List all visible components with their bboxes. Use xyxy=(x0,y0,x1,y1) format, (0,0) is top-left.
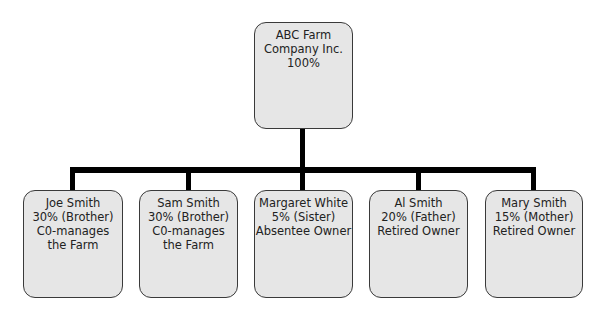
root-company-box: ABC Farm Company Inc. 100% xyxy=(254,22,353,129)
owner-role-cont: the Farm xyxy=(140,238,237,252)
owner-box-mary-smith: Mary Smith 15% (Mother) Retired Owner xyxy=(485,190,583,298)
stem-sam xyxy=(186,167,191,191)
owner-box-joe-smith: Joe Smith 30% (Brother) C0-manages the F… xyxy=(23,190,123,298)
owner-share: 5% (Sister) xyxy=(255,210,352,224)
owner-name: Sam Smith xyxy=(140,196,237,210)
owner-name: Margaret White xyxy=(255,196,352,210)
stem-mary xyxy=(531,167,536,191)
owner-box-sam-smith: Sam Smith 30% (Brother) C0-manages the F… xyxy=(139,190,238,298)
owner-share: 15% (Mother) xyxy=(486,210,582,224)
stem-al xyxy=(416,167,421,191)
owner-name: Al Smith xyxy=(370,196,467,210)
root-name-line1: ABC Farm xyxy=(255,28,352,42)
owner-share: 30% (Brother) xyxy=(24,210,122,224)
root-percent: 100% xyxy=(255,56,352,70)
owner-role: Absentee Owner xyxy=(255,224,352,238)
owner-share: 30% (Brother) xyxy=(140,210,237,224)
owner-role: C0-manages xyxy=(140,224,237,238)
owner-name: Mary Smith xyxy=(486,196,582,210)
root-name-line2: Company Inc. xyxy=(255,42,352,56)
stem-margaret xyxy=(300,167,305,191)
owner-role: Retired Owner xyxy=(370,224,467,238)
owner-role: Retired Owner xyxy=(486,224,582,238)
root-stem xyxy=(300,128,305,172)
owner-box-al-smith: Al Smith 20% (Father) Retired Owner xyxy=(369,190,468,298)
owner-name: Joe Smith xyxy=(24,196,122,210)
owner-share: 20% (Father) xyxy=(370,210,467,224)
owner-role-cont: the Farm xyxy=(24,238,122,252)
owner-role: C0-manages xyxy=(24,224,122,238)
stem-joe xyxy=(70,167,75,191)
owner-box-margaret-white: Margaret White 5% (Sister) Absentee Owne… xyxy=(254,190,353,298)
